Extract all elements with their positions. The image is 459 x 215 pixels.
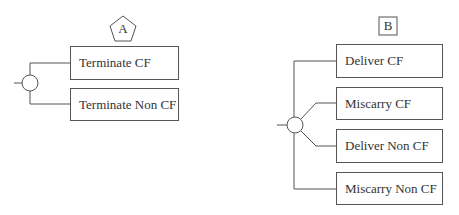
branch-deliver-cf: Deliver CF [336, 44, 443, 78]
marker-b-label: B [379, 18, 397, 34]
chance-node-a [22, 75, 38, 91]
chance-node-b [287, 117, 303, 133]
branch-miscarry-cf: Miscarry CF [336, 87, 443, 120]
marker-a-label: A [110, 21, 136, 37]
branch-miscarry-non-cf: Miscarry Non CF [336, 172, 443, 205]
branch-terminate-cf: Terminate CF [70, 46, 179, 80]
branch-deliver-non-cf: Deliver Non CF [336, 129, 443, 163]
branch-terminate-non-cf: Terminate Non CF [70, 88, 179, 121]
